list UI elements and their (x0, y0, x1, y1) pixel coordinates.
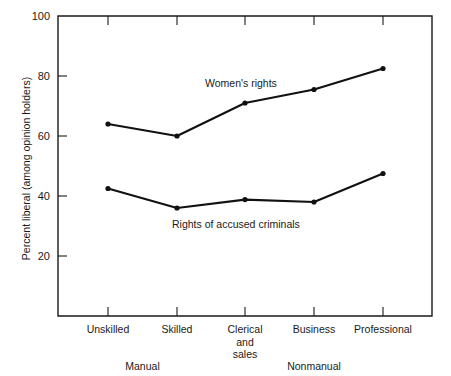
data-point (242, 100, 247, 105)
x-tick-label-line: Skilled (162, 323, 193, 336)
y-axis-label: Percent liberal (among opinion holders) (21, 64, 32, 274)
x-tick-label-line: Unskilled (87, 323, 130, 336)
data-point (311, 87, 316, 92)
plot-area (0, 0, 451, 376)
plot-frame (58, 16, 432, 316)
x-tick-label: Unskilled (87, 323, 130, 336)
data-point (174, 205, 179, 210)
y-tick-label: 80 (22, 71, 50, 82)
data-point (380, 66, 385, 71)
data-point (105, 186, 110, 191)
line-chart: Percent liberal (among opinion holders) … (0, 0, 451, 376)
x-tick-label-line: Professional (354, 323, 412, 336)
y-tick-label: 20 (22, 251, 50, 262)
data-point (242, 197, 247, 202)
series-line-2 (108, 174, 383, 209)
x-tick-label-line: and (215, 336, 275, 349)
axis-ticks (58, 16, 383, 316)
y-tick-label: 100 (22, 11, 50, 22)
y-tick-label: 60 (22, 131, 50, 142)
x-tick-label: Professional (354, 323, 412, 336)
data-point (311, 199, 316, 204)
data-point (380, 171, 385, 176)
x-tick-label: Clericalandsales (215, 323, 275, 361)
data-point (105, 121, 110, 126)
series-label-accused-criminals: Rights of accused criminals (172, 218, 300, 230)
x-tick-label-line: sales (215, 348, 275, 361)
group-label: Nonmanual (287, 360, 341, 372)
y-tick-label: 40 (22, 191, 50, 202)
data-point (174, 133, 179, 138)
group-label: Manual (125, 360, 159, 372)
x-tick-label: Business (293, 323, 336, 336)
x-tick-label: Skilled (162, 323, 193, 336)
axis-frame (58, 16, 432, 316)
series-label-womens-rights: Women's rights (205, 77, 277, 89)
x-tick-label-line: Clerical (215, 323, 275, 336)
x-tick-label-line: Business (293, 323, 336, 336)
